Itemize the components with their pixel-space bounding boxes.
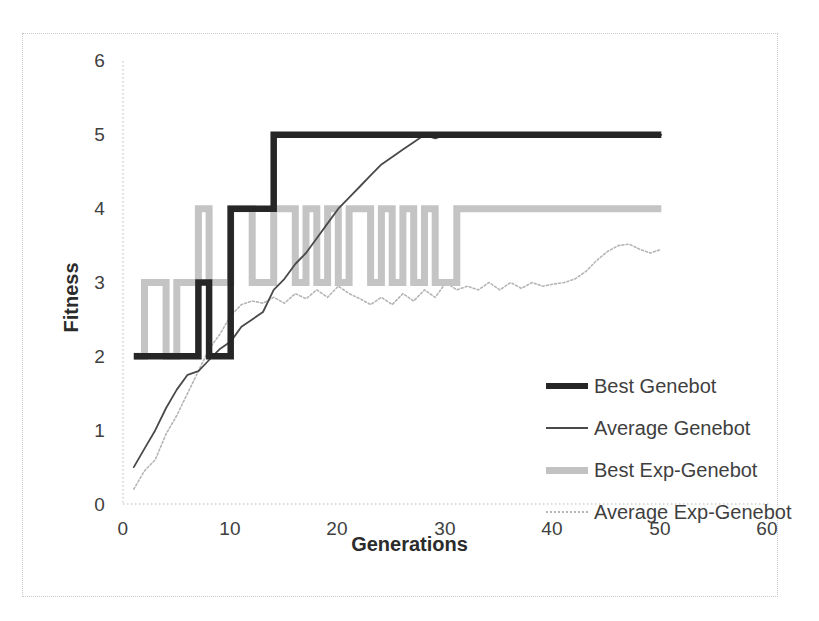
y-tick-0: 0 [65, 494, 105, 516]
legend-label-best-exp-genebot: Best Exp-Genebot [594, 459, 757, 482]
legend-label-best-genebot: Best Genebot [594, 375, 716, 398]
series-best-exp-genebot [134, 209, 662, 357]
legend-label-average-exp-genebot: Average Exp-Genebot [594, 501, 792, 524]
y-axis-label: Fitness [60, 238, 83, 358]
chart-legend: Best Genebot Average Genebot Best Exp-Ge… [546, 365, 816, 533]
y-tick-1: 1 [65, 420, 105, 442]
legend-swatch-best-exp-genebot-icon [546, 463, 588, 477]
legend-item-best-genebot[interactable]: Best Genebot [546, 365, 816, 407]
legend-swatch-best-genebot-icon [546, 379, 588, 393]
legend-swatch-average-genebot-icon [546, 421, 588, 435]
y-tick-4: 4 [65, 198, 105, 220]
legend-swatch-average-exp-genebot-icon [546, 505, 588, 519]
legend-item-average-genebot[interactable]: Average Genebot [546, 407, 816, 449]
y-tick-6: 6 [65, 50, 105, 72]
legend-item-best-exp-genebot[interactable]: Best Exp-Genebot [546, 449, 816, 491]
y-tick-5: 5 [65, 124, 105, 146]
legend-label-average-genebot: Average Genebot [594, 417, 750, 440]
series-best-genebot [134, 135, 662, 356]
chart-plot-frame: 6 5 4 3 2 1 0 0 10 20 30 40 50 60 Fitnes… [22, 33, 778, 597]
figure-canvas: 6 5 4 3 2 1 0 0 10 20 30 40 50 60 Fitnes… [0, 0, 819, 621]
x-axis-label: Generations [0, 533, 819, 556]
legend-item-average-exp-genebot[interactable]: Average Exp-Genebot [546, 491, 816, 533]
